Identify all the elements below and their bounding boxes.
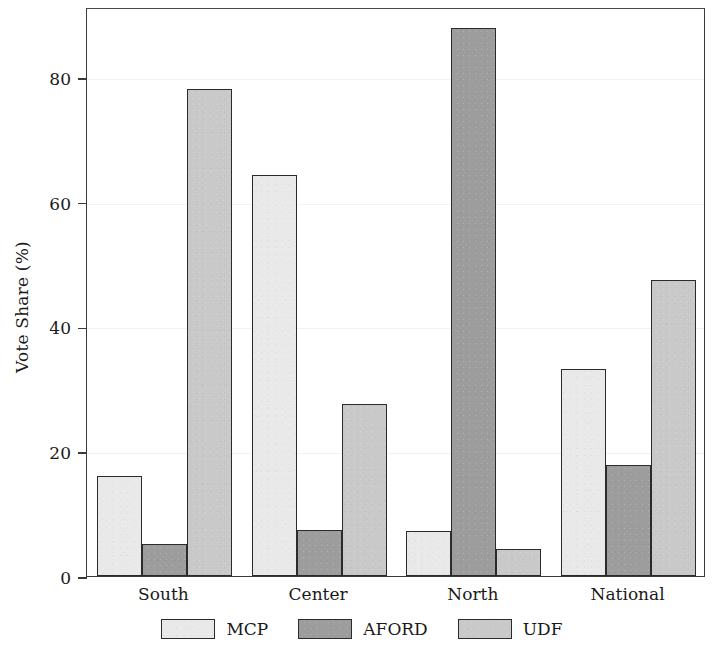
bar-group: [561, 9, 696, 576]
y-tick-label: 0: [60, 570, 71, 587]
bar-texture: [253, 176, 296, 575]
legend-label: MCP: [226, 621, 268, 638]
x-category-label: South: [138, 584, 189, 604]
bar: [406, 531, 451, 576]
chart-legend: MCPAFORDUDF: [0, 619, 724, 639]
y-tick-mark: [78, 78, 87, 80]
bar-texture: [298, 531, 341, 575]
y-tick-mark: [78, 452, 87, 454]
legend-label: AFORD: [363, 621, 427, 638]
bar-group: [252, 9, 387, 576]
y-tick-mark: [78, 203, 87, 205]
bar: [187, 89, 232, 576]
bar-texture: [607, 466, 650, 575]
bar-group: [97, 9, 232, 576]
bar-texture: [562, 370, 605, 575]
bar-texture: [497, 550, 540, 575]
y-tick-mark: [78, 328, 87, 330]
bar: [297, 530, 342, 576]
legend-swatch-texture: [459, 620, 511, 638]
bar-texture: [188, 90, 231, 575]
bar-texture: [143, 545, 186, 575]
bar-chart-figure: Vote Share (%) 020406080 SouthCenterNort…: [0, 0, 724, 649]
bar-texture: [452, 29, 495, 575]
legend-item-mcp[interactable]: MCP: [161, 619, 268, 639]
bar: [651, 280, 696, 576]
bar-group: [406, 9, 541, 576]
x-category-label: Center: [289, 584, 348, 604]
bar: [142, 544, 187, 576]
legend-item-udf[interactable]: UDF: [458, 619, 563, 639]
y-tick-label: 20: [49, 445, 71, 462]
legend-item-aford[interactable]: AFORD: [298, 619, 427, 639]
x-category-label: North: [447, 584, 498, 604]
x-category-label: National: [591, 584, 665, 604]
bar-texture: [407, 532, 450, 575]
legend-swatch: [298, 619, 352, 639]
bar-texture: [343, 405, 386, 575]
legend-swatch-texture: [299, 620, 351, 638]
y-axis-title: Vote Share (%): [12, 207, 32, 407]
bar: [97, 476, 142, 576]
legend-swatch-texture: [162, 620, 214, 638]
bar: [606, 465, 651, 576]
bar-texture: [98, 477, 141, 575]
bar: [252, 175, 297, 576]
bar: [496, 549, 541, 576]
bar: [342, 404, 387, 576]
bar: [451, 28, 496, 576]
y-tick-label: 80: [49, 70, 71, 87]
plot-area: 020406080: [86, 8, 705, 577]
bar-texture: [652, 281, 695, 575]
legend-swatch: [161, 619, 215, 639]
bar: [561, 369, 606, 576]
y-tick-label: 60: [49, 195, 71, 212]
legend-label: UDF: [523, 621, 563, 638]
y-tick-mark: [78, 577, 87, 579]
y-tick-label: 40: [49, 320, 71, 337]
legend-swatch: [458, 619, 512, 639]
